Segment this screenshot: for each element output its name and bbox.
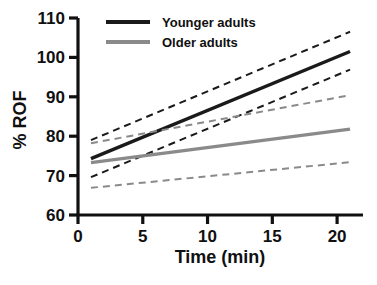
y-tick-label: 80	[46, 127, 65, 146]
y-tick-label: 90	[46, 88, 65, 107]
x-axis-title: Time (min)	[175, 247, 266, 267]
x-tick-label: 15	[263, 227, 282, 246]
x-tick-label: 20	[328, 227, 347, 246]
x-tick-label: 0	[73, 227, 82, 246]
y-axis-title: % ROF	[10, 90, 30, 149]
legend-label-younger-adults: Younger adults	[162, 15, 256, 30]
legend-label-older-adults: Older adults	[162, 35, 238, 50]
y-tick-label: 110	[38, 9, 65, 28]
y-tick-label: 100	[37, 48, 65, 67]
chart-figure: 60708090100110 05101520 Younger adultsOl…	[0, 0, 377, 285]
y-tick-label: 70	[46, 167, 65, 186]
x-tick-label: 5	[138, 227, 147, 246]
y-tick-label: 60	[46, 206, 65, 225]
x-tick-label: 10	[198, 227, 217, 246]
